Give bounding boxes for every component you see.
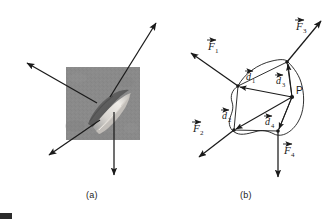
d2-vector — [236, 97, 292, 129]
d3-label-sub: 3 — [282, 81, 285, 88]
d2-label: d 2 — [221, 110, 231, 123]
f3-label: F 3 — [295, 20, 307, 35]
panel-b-caption: (b) — [240, 190, 252, 200]
f1-label-base: F — [207, 40, 215, 52]
f3-label-sub: 3 — [303, 27, 307, 35]
physics-figure: F 1 F 2 F 3 F 4 — [0, 0, 336, 222]
d3-label: d 3 — [275, 75, 285, 88]
f2-vector — [199, 130, 234, 157]
internal-edges — [234, 62, 292, 131]
point-p-label: P — [296, 85, 303, 96]
f2-label-base: F — [192, 122, 200, 134]
d1-vector — [240, 87, 292, 97]
boundary-vertex-dots — [232, 60, 289, 133]
vertex-3-dot — [285, 60, 289, 64]
panel-a — [27, 23, 156, 175]
f1-vector — [191, 53, 238, 86]
page-edge-mark — [0, 213, 12, 219]
d1-label-sub: 1 — [252, 77, 255, 84]
vertex-2-dot — [232, 128, 236, 132]
panel-b: F 1 F 2 F 3 F 4 — [191, 20, 321, 177]
edge-v2-v4 — [234, 130, 278, 131]
d3-vector — [288, 64, 292, 97]
f1-label-sub: 1 — [215, 47, 219, 55]
f2-label-sub: 2 — [200, 129, 204, 137]
f4-label: F 4 — [283, 144, 295, 159]
d4-label-sub: 4 — [271, 122, 275, 129]
d2-label-sub: 2 — [228, 116, 231, 123]
vertex-4-dot — [276, 129, 280, 133]
f3-label-base: F — [295, 20, 303, 32]
d4-label: d 4 — [264, 116, 275, 129]
f2-label: F 2 — [192, 122, 204, 137]
edge-v1-v2 — [234, 86, 238, 130]
vertex-1-dot — [236, 84, 240, 88]
f4-label-sub: 4 — [291, 151, 295, 159]
gray-textured-square-specimen — [65, 67, 140, 140]
panel-a-caption: (a) — [86, 190, 98, 200]
point-p-marker — [290, 95, 294, 99]
f1-label: F 1 — [207, 40, 219, 55]
d4-vector — [279, 97, 292, 129]
f4-label-base: F — [283, 144, 291, 156]
